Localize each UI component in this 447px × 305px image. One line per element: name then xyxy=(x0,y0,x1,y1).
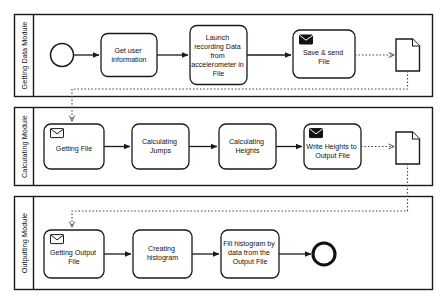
task-launch-recording[interactable]: Launch recording Data from accelerometer… xyxy=(190,26,247,85)
pool-label-getting-data-module: Getting Data Module xyxy=(20,22,29,90)
envelope-open-icon xyxy=(51,129,64,138)
task-label-get-user-information: Get user information xyxy=(111,47,146,64)
bpmn-canvas: Getting Data Module Get user information… xyxy=(0,0,447,305)
task-fill-histogram[interactable]: Fill histogram by data from the Output F… xyxy=(221,230,279,278)
task-calculating-jumps[interactable]: Calculating Jumps xyxy=(132,124,189,169)
envelope-filled-icon xyxy=(310,129,323,138)
data-object-file[interactable] xyxy=(396,39,420,71)
task-label-creating-histogram: Creating histogram xyxy=(147,245,178,262)
task-creating-histogram[interactable]: Creating histogram xyxy=(133,230,192,278)
data-object-output-file[interactable] xyxy=(396,132,420,164)
pool-getting-data-module: Getting Data Module Get user information… xyxy=(15,15,433,97)
bpmn-diagram: Getting Data Module Get user information… xyxy=(0,0,447,305)
task-getting-file[interactable]: Getting File xyxy=(44,124,104,169)
start-event[interactable] xyxy=(51,44,74,67)
pool-label-outputting-module: Outputting Module xyxy=(20,213,29,273)
pool-calculating-module: Calculating Module Getting File Calculat… xyxy=(15,108,433,186)
envelope-filled-icon xyxy=(300,35,313,44)
task-get-user-information[interactable]: Get user information xyxy=(101,34,157,77)
task-label-getting-file: Getting File xyxy=(56,145,92,153)
task-calculating-heights[interactable]: Calculating Heights xyxy=(219,124,276,169)
end-event[interactable] xyxy=(313,243,335,265)
pool-label-calculating-module: Calculating Module xyxy=(20,115,29,178)
task-getting-output-file[interactable]: Getting Output File xyxy=(44,230,104,278)
envelope-open-icon xyxy=(51,235,64,244)
task-save-send-file[interactable]: Save & send File xyxy=(293,30,355,78)
task-write-heights-output[interactable]: Write Heights to Output File xyxy=(304,124,361,169)
